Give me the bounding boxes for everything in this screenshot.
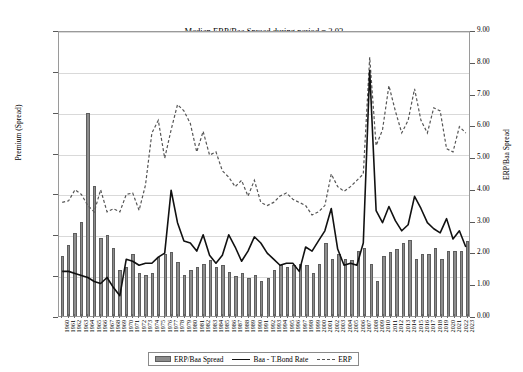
x-tickmark [370, 314, 371, 318]
y-tickmark-right [470, 222, 475, 223]
x-tickmark [312, 314, 313, 318]
x-tickmark [460, 314, 461, 318]
solid-line-swatch-icon [232, 359, 250, 360]
y-tickmark-left [53, 113, 58, 114]
y-tick-right-5: 5.00 [477, 154, 490, 161]
plot-area [58, 31, 470, 317]
x-tickmark [190, 314, 191, 318]
x-tickmark [415, 314, 416, 318]
line-series-layer [59, 32, 469, 316]
x-tickmark [319, 314, 320, 318]
x-tickmark [164, 314, 165, 318]
x-tickmark [351, 314, 352, 318]
x-tickmark [203, 314, 204, 318]
x-tickmark [306, 314, 307, 318]
x-tickmark [422, 314, 423, 318]
y-tickmark-left [53, 72, 58, 73]
y-tickmark-left [53, 194, 58, 195]
x-tickmark [106, 314, 107, 318]
x-tickmark [280, 314, 281, 318]
x-tickmark [93, 314, 94, 318]
legend-label-baa-tbond-rate: Baa - T.Bond Rate [253, 355, 308, 364]
x-tickmark [299, 314, 300, 318]
y-tickmark-right [470, 158, 475, 159]
x-tickmark [287, 314, 288, 318]
x-tickmark [332, 314, 333, 318]
x-tickmark [87, 314, 88, 318]
x-tickmark [241, 314, 242, 318]
y-tickmark-right [470, 126, 475, 127]
legend-item-baa-tbond-rate: Baa - T.Bond Rate [232, 355, 308, 364]
legend-item-erp: ERP [317, 355, 352, 364]
y-tick-right-0: 0.00 [477, 313, 490, 320]
y-axis-right-label: ERP/Baa Spread [502, 95, 511, 215]
x-tickmark [61, 314, 62, 318]
y-tickmark-left [53, 235, 58, 236]
x-tickmark [383, 314, 384, 318]
x-tickmark [447, 314, 448, 318]
legend-item-erp-baa-spread: ERP/Baa Spread [155, 355, 223, 364]
line-erp [62, 57, 466, 215]
x-tickmark [267, 314, 268, 318]
y-tick-right-8: 8.00 [477, 59, 490, 66]
x-tickmark [396, 314, 397, 318]
x-tickmark [454, 314, 455, 318]
y-tickmark-right [470, 317, 475, 318]
x-tickmark [441, 314, 442, 318]
x-tickmark [274, 314, 275, 318]
y-tickmark-right [470, 285, 475, 286]
y-tickmark-right [470, 63, 475, 64]
x-tickmark [467, 314, 468, 318]
chart-legend: ERP/Baa Spread Baa - T.Bond Rate ERP [148, 352, 359, 366]
x-tickmark [409, 314, 410, 318]
x-tickmark [357, 314, 358, 318]
y-tickmark-left [53, 317, 58, 318]
x-tickmark [145, 314, 146, 318]
x-tickmark [402, 314, 403, 318]
y-tickmark-right [470, 190, 475, 191]
y-tickmark-right [470, 253, 475, 254]
x-tickmark [119, 314, 120, 318]
y-tickmark-right [470, 95, 475, 96]
x-tickmark [68, 314, 69, 318]
x-tickmark [428, 314, 429, 318]
x-tickmark [158, 314, 159, 318]
y-tick-right-9: 9.00 [477, 27, 490, 34]
y-tickmark-left [53, 276, 58, 277]
legend-label-erp: ERP [338, 355, 352, 364]
x-tickmark [254, 314, 255, 318]
x-tickmark [138, 314, 139, 318]
legend-label-erp-baa-spread: ERP/Baa Spread [174, 355, 223, 364]
x-tick-2023: 2023 [469, 320, 475, 332]
x-tickmark [74, 314, 75, 318]
x-tickmark [177, 314, 178, 318]
x-tickmark [196, 314, 197, 318]
x-tickmark [209, 314, 210, 318]
y-tick-right-3: 3.00 [477, 218, 490, 225]
y-tick-right-1: 1.00 [477, 281, 490, 288]
line-baa-tbond-rate [62, 71, 466, 296]
x-tickmark [113, 314, 114, 318]
x-tickmark [235, 314, 236, 318]
y-tickmark-left [53, 154, 58, 155]
y-tick-right-2: 2.00 [477, 249, 490, 256]
x-tickmark [377, 314, 378, 318]
y-tick-right-4: 4.00 [477, 186, 490, 193]
x-tickmark [390, 314, 391, 318]
x-tickmark [222, 314, 223, 318]
x-tickmark [184, 314, 185, 318]
x-tickmark [126, 314, 127, 318]
x-tickmark [100, 314, 101, 318]
x-tickmark [216, 314, 217, 318]
x-tickmark [81, 314, 82, 318]
y-axis-left-label: Premium (Spread) [14, 73, 23, 193]
y-tickmark-right [470, 31, 475, 32]
x-tickmark [229, 314, 230, 318]
x-tickmark [151, 314, 152, 318]
x-tickmark [338, 314, 339, 318]
y-tick-right-6: 6.00 [477, 122, 490, 129]
x-tickmark [261, 314, 262, 318]
x-tickmark [364, 314, 365, 318]
x-axis-year-labels: 1960196119621963196419651966196719681969… [58, 318, 470, 352]
x-tickmark [325, 314, 326, 318]
